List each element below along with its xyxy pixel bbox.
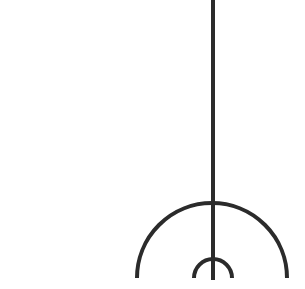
diagram-canvas <box>0 0 305 289</box>
